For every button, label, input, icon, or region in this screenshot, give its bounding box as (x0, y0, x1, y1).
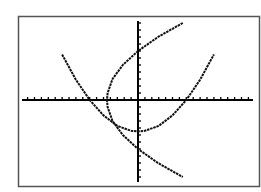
graph-screen (0, 0, 261, 192)
